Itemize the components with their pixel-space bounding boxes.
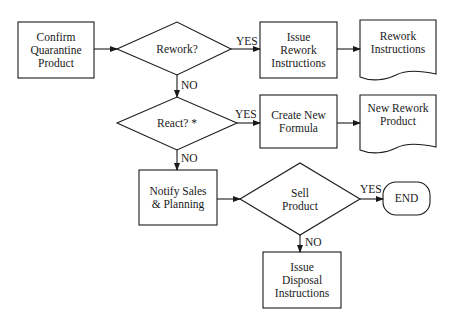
notify-sales-label: Notify Sales & Planning (139, 170, 217, 225)
label-line: Rework (380, 30, 416, 43)
label-line: Formula (279, 122, 318, 135)
edge-label-rework-yes: YES (236, 35, 258, 47)
label-line: Disposal (282, 274, 322, 287)
label-line: Rework? (156, 43, 198, 56)
end-label: END (383, 182, 430, 215)
edge-label-rework-no: NO (181, 79, 198, 91)
label-line: Rework (280, 44, 316, 57)
edge-label-sell-no: NO (305, 236, 322, 248)
label-line: Notify Sales (149, 185, 206, 198)
label-line: Product (282, 200, 318, 213)
edge-label-react-yes: YES (235, 108, 257, 120)
react-decision-label: React? * (130, 114, 224, 132)
issue-rework-label: Issue Rework Instructions (260, 22, 337, 78)
edge-label-sell-yes: YES (360, 183, 382, 195)
label-line: Product (380, 115, 416, 128)
label-line: Issue (287, 31, 311, 44)
label-line: Issue (290, 261, 314, 274)
rework-instructions-label: Rework Instructions (360, 26, 436, 60)
label-line: Product (38, 57, 74, 70)
label-line: Instructions (371, 43, 425, 56)
label-line: Instructions (271, 57, 325, 70)
create-formula-label: Create New Formula (260, 95, 337, 148)
disposal-label: Issue Disposal Instructions (263, 252, 341, 308)
confirm-quarantine-label: Confirm Quarantine Product (18, 22, 94, 78)
label-line: Create New (271, 109, 326, 122)
label-line: & Planning (152, 198, 205, 211)
label-line: New Rework (368, 102, 429, 115)
sell-decision-label: Sell Product (260, 185, 340, 215)
new-rework-product-label: New Rework Product (360, 98, 436, 132)
label-line: Confirm (37, 31, 76, 44)
label-line: Quarantine (30, 44, 81, 57)
label-line: Sell (291, 187, 309, 200)
label-line: END (395, 192, 419, 205)
label-line: Instructions (275, 287, 329, 300)
label-line: React? * (157, 117, 197, 130)
rework-decision-label: Rework? (130, 40, 224, 58)
edge-label-react-no: NO (181, 152, 198, 164)
